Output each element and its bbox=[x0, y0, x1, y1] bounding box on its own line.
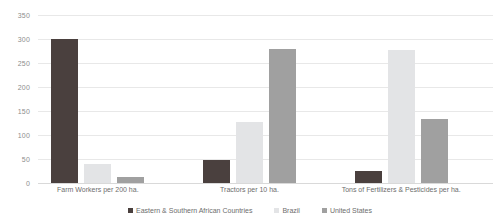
y-axis-tick-label: 50 bbox=[22, 156, 30, 163]
legend-item[interactable]: United States bbox=[322, 207, 372, 214]
x-axis-category-label: Tractors per 10 ha. bbox=[220, 186, 279, 193]
legend-item[interactable]: Brazil bbox=[274, 207, 300, 214]
bar-chart: 050100150200250300350 Farm Workers per 2… bbox=[0, 0, 500, 220]
y-axis-tick-label: 150 bbox=[18, 108, 30, 115]
gridline bbox=[38, 111, 493, 112]
y-axis-tick-label: 100 bbox=[18, 132, 30, 139]
chart-legend: Eastern & Southern African CountriesBraz… bbox=[0, 203, 500, 217]
x-axis-category-label: Tons of Fertilizers & Pesticides per ha. bbox=[342, 186, 461, 193]
y-axis-tick-label: 200 bbox=[18, 84, 30, 91]
gridline bbox=[38, 15, 493, 16]
y-axis-tick-label: 350 bbox=[18, 12, 30, 19]
bar bbox=[269, 49, 296, 183]
y-axis-tick-label: 0 bbox=[26, 180, 30, 187]
bar bbox=[203, 160, 230, 183]
legend-label: United States bbox=[330, 207, 372, 214]
gridline bbox=[38, 39, 493, 40]
bar bbox=[355, 171, 382, 183]
bar bbox=[84, 164, 111, 183]
x-axis: Farm Workers per 200 ha.Tractors per 10 … bbox=[38, 186, 493, 200]
axis-baseline bbox=[38, 183, 493, 184]
y-axis-tick-label: 300 bbox=[18, 36, 30, 43]
legend-swatch-icon bbox=[128, 208, 133, 213]
gridline bbox=[38, 63, 493, 64]
plot-area bbox=[38, 15, 493, 183]
y-axis: 050100150200250300350 bbox=[0, 15, 34, 183]
legend-item[interactable]: Eastern & Southern African Countries bbox=[128, 207, 252, 214]
legend-label: Eastern & Southern African Countries bbox=[136, 207, 252, 214]
legend-swatch-icon bbox=[274, 208, 279, 213]
legend-label: Brazil bbox=[282, 207, 300, 214]
bar bbox=[388, 50, 415, 183]
y-axis-tick-label: 250 bbox=[18, 60, 30, 67]
legend-swatch-icon bbox=[322, 208, 327, 213]
gridline bbox=[38, 87, 493, 88]
bar bbox=[117, 177, 144, 183]
x-axis-category-label: Farm Workers per 200 ha. bbox=[57, 186, 139, 193]
bar bbox=[421, 119, 448, 183]
bar bbox=[51, 39, 78, 183]
bar bbox=[236, 122, 263, 183]
